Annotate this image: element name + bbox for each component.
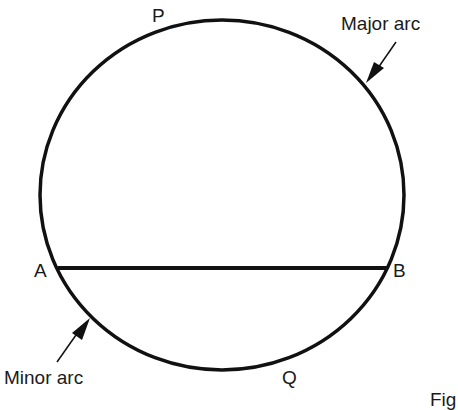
major-arc-arrow <box>378 42 396 68</box>
point-q-label: Q <box>282 368 297 387</box>
major-arc-label: Major arc <box>341 14 420 33</box>
point-p-label: P <box>152 6 165 25</box>
point-b-label: B <box>393 261 406 280</box>
minor-arc-label: Minor arc <box>4 368 83 387</box>
major-arc-arrowhead <box>366 62 384 83</box>
point-a-label: A <box>34 261 47 280</box>
minor-arc-arrow <box>57 335 76 362</box>
figure-caption: Fig <box>430 390 456 409</box>
circle <box>40 20 404 370</box>
